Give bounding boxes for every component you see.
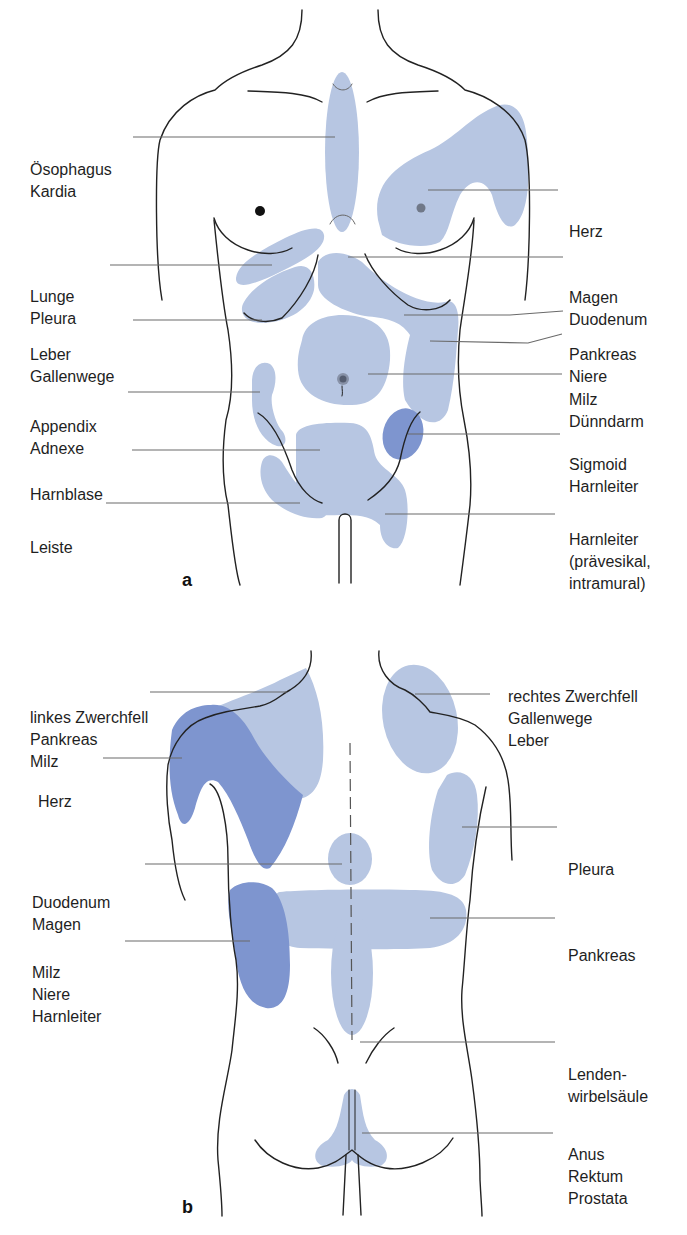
- front-view: [106, 10, 563, 585]
- label-milz-niere: MilzNiereHarnleiter: [32, 918, 101, 1050]
- zone-pankreas-back: [274, 890, 466, 950]
- label-leiste: Leiste: [30, 493, 73, 581]
- front-zones: [236, 72, 529, 548]
- label-anus: AnusRektumProstata: [568, 1100, 628, 1232]
- label-harnleiter: Harnleiter(prävesikal,intramural): [569, 485, 651, 617]
- zone-zwerchfell-rechts: [372, 658, 467, 781]
- zone-anus: [315, 1089, 387, 1167]
- zone-appendix: [252, 363, 285, 447]
- label-herz-back: Herz: [38, 747, 72, 835]
- zone-oesophagus: [325, 72, 359, 232]
- zone-herz: [377, 105, 529, 246]
- label-pleura: Pleura: [568, 815, 614, 903]
- back-zones: [170, 658, 478, 1167]
- panel-letter-b: b: [182, 1197, 193, 1218]
- label-pankreas-back: Pankreas: [568, 901, 636, 989]
- label-oesophagus: ÖsophagusKardia: [30, 115, 112, 225]
- nipple-left-icon: [255, 206, 265, 216]
- zone-duenndarm: [298, 315, 390, 405]
- label-zwerchfell-rechts: rechtes ZwerchfellGallenwegeLeber: [508, 642, 638, 774]
- zone-duodenum: [328, 833, 372, 885]
- back-view: [103, 651, 557, 1216]
- panel-letter-a: a: [182, 570, 192, 591]
- nipple-right-icon: [417, 204, 426, 213]
- zone-pleura: [429, 772, 478, 884]
